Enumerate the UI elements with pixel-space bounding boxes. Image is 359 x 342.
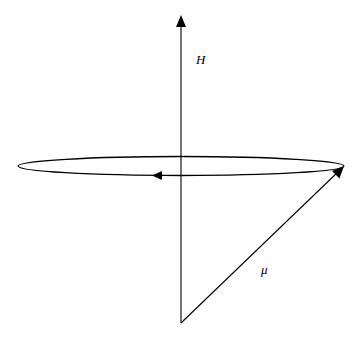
precession-diagram: H μ [0, 0, 359, 342]
moment-vector-arrow [181, 170, 340, 323]
orbit-direction-arrow-icon [152, 171, 162, 180]
field-label: H [195, 52, 206, 67]
moment-label: μ [260, 262, 268, 277]
field-arrowhead-icon [176, 15, 186, 27]
